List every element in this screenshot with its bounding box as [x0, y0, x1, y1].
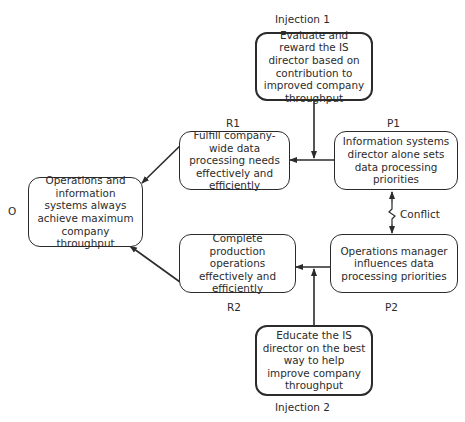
o-label: O [8, 205, 16, 217]
r1-label: R1 [226, 117, 240, 129]
p2-label: P2 [385, 301, 398, 313]
injection1-label: Injection 1 [275, 13, 330, 25]
conflict-arrow [389, 192, 395, 233]
r2-label: R2 [227, 301, 241, 313]
conflict-label: Conflict [400, 208, 440, 220]
r1-box: Fulfill company-wide data processing nee… [179, 131, 290, 190]
o-box: Operations and information systems alway… [28, 177, 143, 247]
injection2-label: Injection 2 [275, 401, 330, 413]
arrow-r2-to-o [130, 246, 180, 282]
p2-box: Operations manager influences data proce… [330, 234, 458, 293]
p1-label: P1 [387, 117, 400, 129]
r2-box: Complete production operations effective… [179, 234, 296, 293]
injection1-box: Evaluate and reward the IS director base… [255, 32, 373, 101]
p1-box: Information systems director alone sets … [334, 131, 458, 190]
injection2-box: Educate the IS director on the best way … [255, 325, 373, 396]
